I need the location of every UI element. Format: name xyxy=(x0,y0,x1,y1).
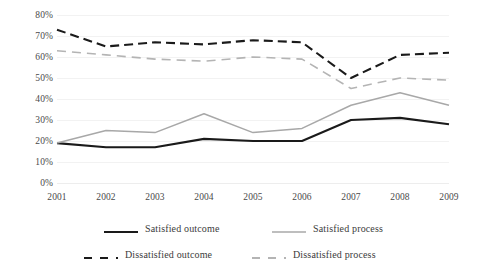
legend-label: Satisfied process xyxy=(313,223,383,234)
x-axis: 200120022003200420052006200720082009 xyxy=(57,191,449,207)
legend-label: Dissatisfied outcome xyxy=(125,249,212,260)
legend-item-1[interactable]: Satisfied process xyxy=(272,221,383,235)
series-line-2 xyxy=(57,30,449,78)
line-chart: 80%70%60%50%40%30%20%10%0% 2001200220032… xyxy=(0,0,477,274)
legend-label: Dissatisfied process xyxy=(293,249,376,260)
y-axis-tick-label: 80% xyxy=(7,10,53,20)
legend-swatch-icon xyxy=(84,249,118,259)
series-line-3 xyxy=(57,51,449,89)
plot-area xyxy=(57,15,449,183)
chart-legend: Satisfied outcomeSatisfied processDissat… xyxy=(0,216,477,274)
y-axis-tick-label: 0% xyxy=(7,178,53,188)
y-axis-tick-label: 40% xyxy=(7,94,53,104)
legend-item-0[interactable]: Satisfied outcome xyxy=(104,221,219,235)
legend-swatch-icon xyxy=(104,223,138,233)
y-axis-tick-label: 70% xyxy=(7,31,53,41)
x-axis-tick-label: 2003 xyxy=(145,191,164,203)
y-axis-tick-label: 20% xyxy=(7,136,53,146)
y-axis-tick-label: 50% xyxy=(7,73,53,83)
x-axis-tick-label: 2009 xyxy=(439,191,458,203)
y-axis-tick-label: 60% xyxy=(7,52,53,62)
y-axis-tick-label: 30% xyxy=(7,115,53,125)
series-layer xyxy=(57,15,449,183)
x-axis-tick-label: 2001 xyxy=(47,191,66,203)
x-axis-tick-label: 2002 xyxy=(96,191,115,203)
x-axis-tick-label: 2008 xyxy=(390,191,409,203)
legend-item-2[interactable]: Dissatisfied outcome xyxy=(84,247,212,261)
legend-swatch-icon xyxy=(252,249,286,259)
x-axis-tick-label: 2004 xyxy=(194,191,213,203)
gridline xyxy=(57,183,449,184)
legend-label: Satisfied outcome xyxy=(145,223,219,234)
legend-item-3[interactable]: Dissatisfied process xyxy=(252,247,376,261)
legend-swatch-icon xyxy=(272,223,306,233)
x-axis-tick-label: 2007 xyxy=(341,191,360,203)
x-axis-tick-label: 2006 xyxy=(292,191,311,203)
y-axis-tick-label: 10% xyxy=(7,157,53,167)
x-axis-tick-label: 2005 xyxy=(243,191,262,203)
